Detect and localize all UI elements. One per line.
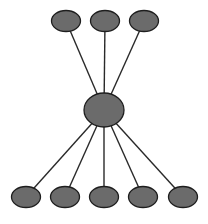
node-top-2 xyxy=(91,11,120,32)
hub-node xyxy=(84,93,124,127)
node-bottom-5 xyxy=(169,187,198,208)
node-bottom-3 xyxy=(90,187,119,208)
node-bottom-4 xyxy=(129,187,158,208)
node-bottom-1 xyxy=(12,187,41,208)
node-top-1 xyxy=(52,11,81,32)
node-top-3 xyxy=(130,11,159,32)
hub-spoke-diagram xyxy=(0,0,208,224)
node-bottom-2 xyxy=(51,187,80,208)
